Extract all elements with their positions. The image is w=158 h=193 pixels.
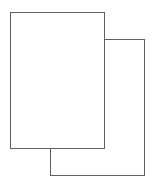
front-page-icon — [10, 12, 105, 149]
duplicate-pages-icon — [0, 0, 158, 193]
